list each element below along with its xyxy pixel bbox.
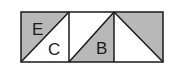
squares-diagram: E C B xyxy=(0,0,175,71)
label-c: C xyxy=(48,40,60,59)
label-b: B xyxy=(96,39,107,58)
label-e: E xyxy=(32,20,43,39)
